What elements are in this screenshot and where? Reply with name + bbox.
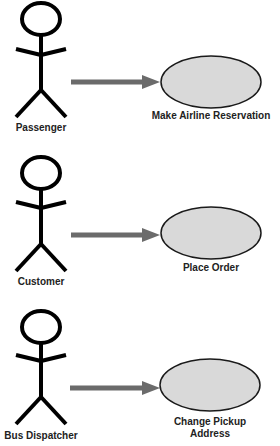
stick-figure-icon: [16, 3, 66, 117]
actor-label: Passenger: [1, 122, 81, 133]
use-case-row-1: Passenger Make Airline Reservation: [0, 0, 280, 148]
use-case-row-3: Bus Dispatcher Change Pickup Address: [0, 300, 280, 446]
association-arrow-icon: [70, 381, 160, 395]
use-case-row-2: Customer Place Order: [0, 150, 280, 298]
stick-figure-icon: [16, 311, 66, 424]
use-case-label: Make Airline Reservation: [146, 110, 276, 122]
use-case-label: Place Order: [146, 262, 276, 274]
use-case-ellipse: [160, 359, 260, 411]
use-case-ellipse: [161, 56, 261, 108]
stick-figure-icon: [16, 157, 66, 271]
actor-label: Bus Dispatcher: [1, 430, 81, 441]
use-case-ellipse: [161, 207, 261, 259]
association-arrow-icon: [71, 75, 160, 89]
association-arrow-icon: [71, 228, 160, 242]
actor-label: Customer: [1, 276, 81, 287]
use-case-label: Change Pickup Address: [170, 416, 250, 440]
